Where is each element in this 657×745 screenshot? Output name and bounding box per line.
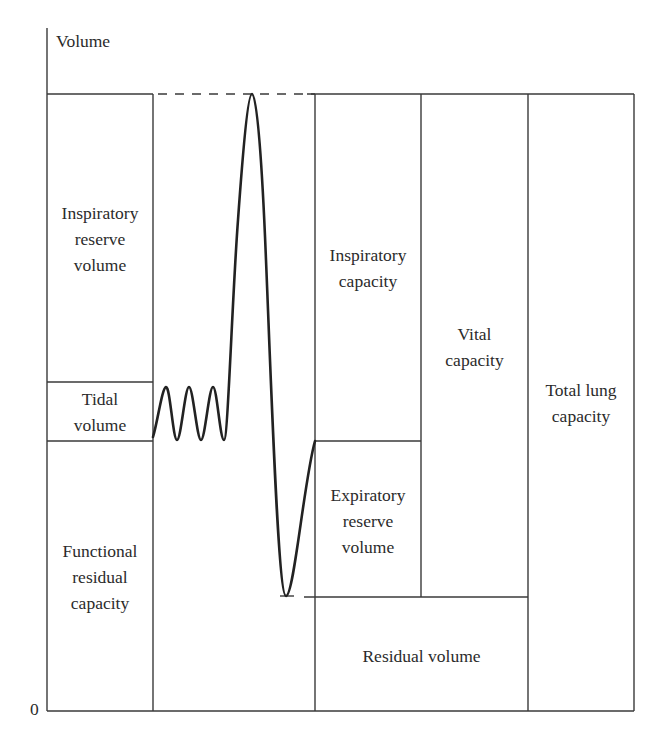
erv-label: Expiratory reserve volume (315, 482, 421, 560)
total-lung-capacity-label: Total lung capacity (528, 377, 634, 429)
inspiratory-capacity-label: Inspiratory capacity (315, 242, 421, 294)
spirometry-curve (153, 94, 315, 596)
y-axis-label: Volume (56, 31, 110, 52)
tidal-volume-label: Tidal volume (47, 386, 153, 438)
origin-label: 0 (30, 699, 39, 720)
irv-label: Inspiratory reserve volume (47, 200, 153, 278)
lung-volumes-diagram (0, 0, 657, 745)
vital-capacity-label: Vital capacity (421, 321, 528, 373)
frc-label: Functional residual capacity (47, 538, 153, 616)
residual-volume-label: Residual volume (315, 643, 528, 669)
